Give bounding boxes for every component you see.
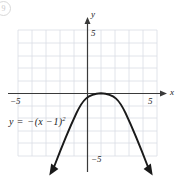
axis-lines — [8, 24, 160, 172]
equation-inner-value: 1) — [53, 116, 62, 127]
graph-figure: 9 — [0, 0, 181, 183]
equation-exponent: 2 — [62, 115, 65, 122]
x-axis-tick-label-5: 5 — [148, 97, 153, 106]
y-axis-arrowhead — [85, 17, 91, 24]
equation-leading-minus: − — [27, 116, 35, 127]
equation-annotation: y = −(x −1)2 — [9, 117, 66, 127]
equation-equals: = — [16, 116, 24, 127]
x-axis-label: x — [170, 88, 174, 97]
y-axis-label: y — [91, 10, 95, 19]
y-axis-tick-label-5: 5 — [91, 29, 96, 38]
y-axis-tick-label-negative-5: −5 — [91, 155, 102, 164]
equation-lhs: y — [9, 116, 14, 127]
x-axis-tick-label-negative-5: −5 — [10, 97, 21, 106]
equation-open-paren: (x — [35, 116, 43, 127]
x-axis-arrowhead — [160, 91, 167, 97]
